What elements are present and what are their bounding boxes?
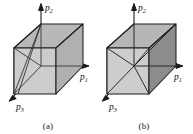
axis-p2-arrowhead (39, 4, 44, 11)
axis-p2-arrowhead (132, 4, 137, 11)
axis-label-p3-b: p3 (108, 102, 117, 113)
caption-a: (a) (0, 121, 96, 131)
axis-label-p2-a: p2 (44, 3, 53, 14)
axis-label-p1-a: p1 (79, 72, 88, 83)
axis-p1-arrowhead (176, 64, 183, 69)
axis-p3-arrowhead (102, 95, 109, 101)
panel-a: p2 p1 p3 (a) (0, 0, 96, 134)
caption-b: (b) (96, 121, 192, 131)
axis-label-p2-b: p2 (137, 3, 146, 14)
figure-container: p2 p1 p3 (a) (0, 0, 193, 134)
cube-diagram-a: p2 p1 p3 (0, 0, 96, 134)
cube-diagram-b: p2 p1 p3 (96, 0, 193, 134)
axis-label-p3-a: p3 (15, 102, 24, 113)
axis-label-p1-b: p1 (173, 72, 182, 83)
axis-p3-arrowhead (9, 95, 16, 101)
panel-b: p2 p1 p3 (b) (96, 0, 192, 134)
